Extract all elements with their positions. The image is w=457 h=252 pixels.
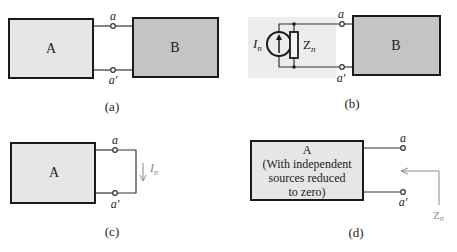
current-label: In <box>149 161 158 177</box>
caption-d: (d) <box>348 225 363 240</box>
network-a-label: A <box>49 165 60 180</box>
terminal-a-prime <box>401 190 406 195</box>
terminal-a-label: a <box>400 131 406 145</box>
network-a-label: A <box>46 41 57 56</box>
impedance-label: Zn <box>433 209 444 223</box>
network-b-label: B <box>170 40 179 55</box>
caption-a: (a) <box>105 99 119 114</box>
terminal-a-prime-label: a′ <box>399 195 408 209</box>
panel-a: A a a′ B (a) <box>9 9 218 114</box>
terminal-a-prime <box>113 191 118 196</box>
terminal-a <box>113 148 118 153</box>
panel-d: A (With independent sources reduced to z… <box>251 131 444 240</box>
terminal-a <box>340 22 345 27</box>
terminal-a <box>401 146 406 151</box>
panel-c: A a a′ In (c) <box>11 133 158 239</box>
box-line-4: to zero) <box>289 185 326 199</box>
terminal-a-prime-label: a′ <box>109 73 118 87</box>
terminal-a-prime-label: a′ <box>111 197 120 211</box>
terminal-a-label: a <box>112 133 118 147</box>
box-line-3: sources reduced <box>269 171 346 185</box>
caption-b: (b) <box>344 96 359 111</box>
short-circuit-wire <box>117 150 136 193</box>
panel-b: In Zn a a′ B (b) <box>248 7 440 111</box>
terminal-a-prime <box>340 65 345 70</box>
junction-dot <box>292 65 296 69</box>
terminal-a-prime <box>111 68 116 73</box>
terminal-a-label: a <box>110 9 116 23</box>
network-b-label: B <box>391 38 400 53</box>
caption-c: (c) <box>105 224 119 239</box>
box-line-2: (With independent <box>262 157 352 171</box>
box-line-1: A <box>303 143 312 157</box>
terminal-a-prime-label: a′ <box>337 71 346 85</box>
junction-dot <box>292 22 296 26</box>
impedance-icon <box>290 32 298 58</box>
terminal-a <box>111 24 116 29</box>
terminal-a-label: a <box>338 7 344 21</box>
